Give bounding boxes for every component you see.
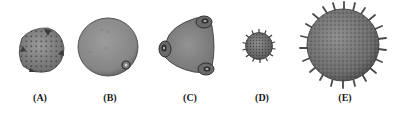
panel-label-c: (C): [183, 92, 197, 103]
pollen-grain-b-icon: [76, 16, 140, 80]
pollen-grain-a-icon: [14, 24, 68, 76]
panel-label-e: (E): [338, 92, 351, 103]
panel-label-d: (D): [255, 92, 269, 103]
panel-label-a: (A): [33, 92, 47, 103]
panel-label-b: (B): [103, 92, 116, 103]
pollen-grain-e-icon: [298, 0, 390, 92]
pollen-figure: (A) (B) (C) (D) (E): [0, 0, 405, 117]
pollen-grain-d-icon: [240, 27, 278, 65]
pollen-grain-c-icon: [156, 12, 220, 78]
